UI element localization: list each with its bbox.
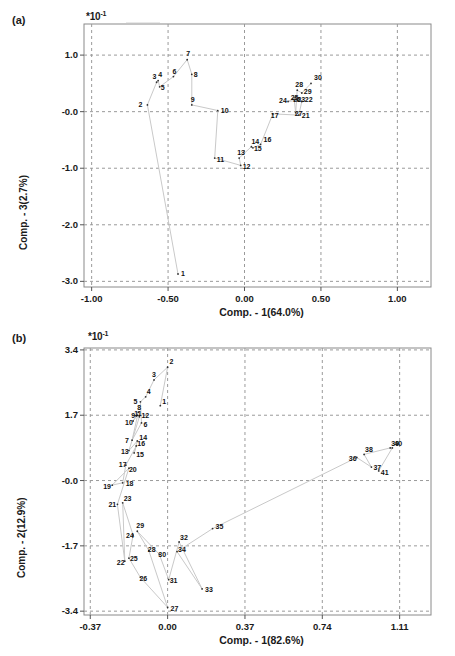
data-point-label: 2 xyxy=(170,358,174,365)
y-tick-label: -0.0 xyxy=(38,106,78,117)
data-point-label: 10 xyxy=(221,107,229,114)
data-point-label: 7 xyxy=(186,50,190,57)
data-point-label: 17 xyxy=(271,112,279,119)
x-tick-label: 0.00 xyxy=(223,293,267,304)
data-point-label: 6 xyxy=(143,421,147,428)
y-tick-label: -0.0 xyxy=(38,475,78,486)
data-point-label: 13 xyxy=(121,448,129,455)
data-point-label: 30 xyxy=(158,551,166,558)
data-point-label: 5 xyxy=(161,84,165,91)
data-point-label: 16 xyxy=(137,440,145,447)
y-tick-label: 1.0 xyxy=(38,49,78,60)
data-point-label: 8 xyxy=(194,71,198,78)
data-point-label: 27 xyxy=(171,605,179,612)
y-tick-label: -1.7 xyxy=(38,540,78,551)
data-point-label: 22 xyxy=(117,559,125,566)
data-point-label: 24 xyxy=(279,97,287,104)
data-point-label: 3 xyxy=(152,371,156,378)
y-tick-label: 3.4 xyxy=(38,344,78,355)
data-point-label: 12 xyxy=(243,163,251,170)
data-point-label: 27 xyxy=(295,110,303,117)
data-point-label: 23 xyxy=(124,495,132,502)
data-point-label: 32 xyxy=(180,534,188,541)
x-tick-label: 0.74 xyxy=(300,621,344,632)
data-point-label: 12 xyxy=(141,412,149,419)
data-point-label: 3 xyxy=(153,73,157,80)
x-tick-label: -1.00 xyxy=(70,293,114,304)
x-tick-label: 0.00 xyxy=(146,621,190,632)
y-tick-label: 1.7 xyxy=(38,409,78,420)
x-tick-label: 0.50 xyxy=(299,293,343,304)
panel-b-scatter-plot: (b) *10-1 Comp. - 2(12.9%) Comp. - 1(82.… xyxy=(0,328,455,656)
y-tick-label: -3.0 xyxy=(38,275,78,286)
data-point-label: 28 xyxy=(148,546,156,553)
data-point-label: 1 xyxy=(162,398,166,405)
data-point-label: 16 xyxy=(264,136,272,143)
x-tick-label: 0.37 xyxy=(223,621,267,632)
data-point-label: 22 xyxy=(305,96,313,103)
data-point-label: 13 xyxy=(237,149,245,156)
y-tick-label: -3.4 xyxy=(38,605,78,616)
data-point-label: 17 xyxy=(119,461,127,468)
data-point-label: 29 xyxy=(136,522,144,529)
data-point-label: 15 xyxy=(136,451,144,458)
data-point-label: 36 xyxy=(349,455,357,462)
data-point-label: 7 xyxy=(125,437,129,444)
data-point-label: 15 xyxy=(254,145,262,152)
y-tick-label: -1.0 xyxy=(38,162,78,173)
data-point-label: 38 xyxy=(365,446,373,453)
panel-a-scatter-plot: (a) *10-1 Comp. - 3(2.7%) Comp. - 1(64.0… xyxy=(0,0,455,328)
data-point-label: 26 xyxy=(293,96,301,103)
data-point-label: 33 xyxy=(205,586,213,593)
data-point-label: 35 xyxy=(216,523,224,530)
x-tick-label: -0.37 xyxy=(68,621,112,632)
data-point-label: 29 xyxy=(304,88,312,95)
data-point-label: 4 xyxy=(158,71,162,78)
data-point-label: 26 xyxy=(139,575,147,582)
data-point-label: 19 xyxy=(103,483,111,490)
data-point-label: 40 xyxy=(394,440,402,447)
data-point-label: 25 xyxy=(130,555,138,562)
data-point-label: 6 xyxy=(172,68,176,75)
data-point-label: 4 xyxy=(147,388,151,395)
data-point-label: 31 xyxy=(170,577,178,584)
x-tick-label: -0.50 xyxy=(146,293,190,304)
data-point-label: 34 xyxy=(178,546,186,553)
data-point-label: 28 xyxy=(295,81,303,88)
data-point-label: 1 xyxy=(181,270,185,277)
data-point-label: 41 xyxy=(381,469,389,476)
data-point-label: 11 xyxy=(217,156,224,163)
data-point-label: 9 xyxy=(191,96,195,103)
x-tick-label: 1.11 xyxy=(378,621,422,632)
data-point-label: 20 xyxy=(129,466,137,473)
data-point-label: 18 xyxy=(126,480,134,487)
data-point-label: 2 xyxy=(138,101,142,108)
data-point-label: 21 xyxy=(302,112,310,119)
data-point-label: 21 xyxy=(108,501,116,508)
y-tick-label: -2.0 xyxy=(38,219,78,230)
data-point-label: 24 xyxy=(126,532,134,539)
x-tick-label: 1.00 xyxy=(375,293,419,304)
data-point-label: 14 xyxy=(251,138,259,145)
data-point-label: 10 xyxy=(125,419,133,426)
data-point-label: 30 xyxy=(314,74,322,81)
